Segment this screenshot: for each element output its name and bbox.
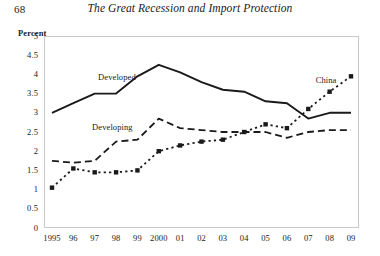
data-point-marker xyxy=(178,143,182,147)
y-tick-label: 0 xyxy=(4,223,38,233)
data-point-marker xyxy=(221,137,225,141)
y-tick-label: 4.5 xyxy=(4,50,38,60)
y-tick-label: 0.5 xyxy=(4,203,38,213)
x-tick-label: 09 xyxy=(335,233,367,243)
data-point-marker xyxy=(157,149,161,153)
data-point-marker xyxy=(349,74,353,78)
y-tick-label: 5 xyxy=(4,31,38,41)
y-tick-label: 1.5 xyxy=(4,165,38,175)
series-label-developing: Developing xyxy=(92,122,133,132)
data-point-marker xyxy=(114,170,118,174)
y-tick-label: 1 xyxy=(4,184,38,194)
data-point-marker xyxy=(327,89,331,93)
y-tick-label: 3 xyxy=(4,107,38,117)
y-tick-label: 3.5 xyxy=(4,88,38,98)
data-point-marker xyxy=(50,185,54,189)
y-tick-label: 2 xyxy=(4,146,38,156)
series-label-developed: Developed xyxy=(98,72,136,82)
data-point-marker xyxy=(306,107,310,111)
running-head: 68 The Great Recession and Import Protec… xyxy=(0,0,380,22)
book-title: The Great Recession and Import Protectio… xyxy=(0,2,380,14)
data-point-marker xyxy=(242,130,246,134)
chart-figure: Percent 54.543.532.521.510.50 1995969798… xyxy=(0,22,380,256)
data-point-marker xyxy=(285,126,289,130)
data-point-marker xyxy=(263,122,267,126)
data-point-marker xyxy=(71,166,75,170)
y-tick-label: 2.5 xyxy=(4,127,38,137)
data-point-marker xyxy=(199,139,203,143)
data-point-marker xyxy=(93,170,97,174)
chart-plot-area xyxy=(44,36,359,228)
y-tick-label: 4 xyxy=(4,69,38,79)
data-point-marker xyxy=(135,168,139,172)
series-label-china: China xyxy=(316,75,337,85)
